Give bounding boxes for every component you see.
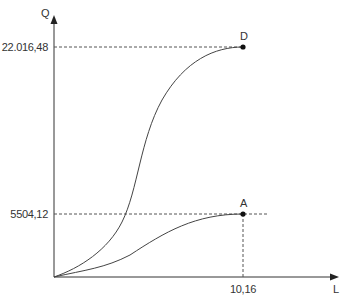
- y-axis-arrow-icon: [51, 15, 58, 24]
- y-tick-low: 5504,12: [10, 208, 48, 220]
- point-a: [240, 211, 245, 216]
- y-tick-high: 22.016,48: [2, 41, 48, 53]
- x-axis-arrow-icon: [330, 274, 339, 281]
- curve-d: [54, 47, 243, 277]
- x-tick: 10,16: [230, 283, 256, 295]
- x-axis-label: L: [333, 283, 339, 295]
- point-d-label: D: [240, 30, 248, 42]
- curve-a: [54, 214, 243, 277]
- y-axis-label: Q: [41, 7, 50, 19]
- point-d: [240, 44, 245, 49]
- chart: Q L 22.016,48 5504,12 10,16 D A: [0, 0, 351, 305]
- point-a-label: A: [240, 197, 248, 209]
